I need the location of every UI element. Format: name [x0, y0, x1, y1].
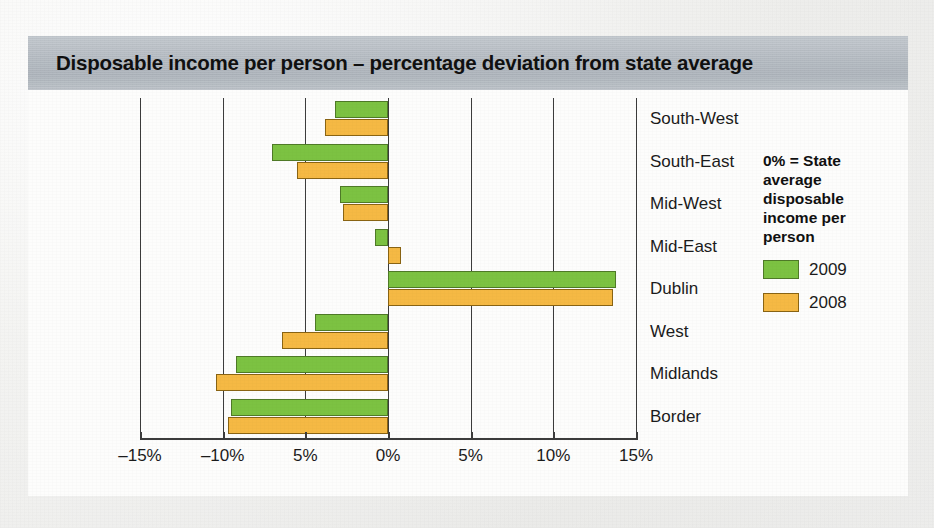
bar-2009-dublin: [388, 271, 616, 288]
bar-2009-mid-east: [375, 229, 388, 246]
page-title: Disposable income per person – percentag…: [56, 51, 753, 75]
x-axis-tick-label: –15%: [118, 446, 161, 466]
x-axis-tick-label: 15%: [619, 446, 653, 466]
bar-2008-mid-west: [343, 204, 388, 221]
category-label-south-west: South-West: [650, 109, 739, 129]
x-axis-tick: [636, 432, 638, 440]
bar-2009-midlands: [236, 356, 388, 373]
chart-plot-card: 0% = State average disposable income per…: [28, 90, 908, 496]
legend-item-2009[interactable]: 2009: [763, 260, 888, 280]
chart-title-band: Disposable income per person – percentag…: [28, 36, 908, 90]
chart-legend: 0% = State average disposable income per…: [763, 152, 888, 313]
chart-figure: Disposable income per person – percentag…: [28, 36, 908, 496]
legend-swatch-2008: [763, 293, 799, 312]
x-axis-tick-label: 10%: [536, 446, 570, 466]
gridline: [553, 98, 554, 438]
category-label-midlands: Midlands: [650, 364, 718, 384]
bar-2009-west: [315, 314, 388, 331]
bar-2008-mid-east: [388, 247, 401, 264]
category-label-west: West: [650, 322, 688, 342]
gridline: [388, 98, 389, 438]
plot-area: [140, 98, 636, 438]
legend-entries: 20092008: [763, 260, 888, 313]
bar-2008-dublin: [388, 289, 613, 306]
bar-2008-south-east: [297, 162, 388, 179]
bar-2009-border: [231, 399, 388, 416]
x-axis-tick-label: –10%: [201, 446, 244, 466]
legend-swatch-2009: [763, 260, 799, 279]
category-label-mid-east: Mid-East: [650, 237, 717, 257]
legend-label-2008: 2008: [809, 293, 847, 313]
x-axis-tick-label: 5%: [293, 446, 318, 466]
x-axis-tick: [553, 432, 555, 440]
x-axis-tick-label: 5%: [458, 446, 483, 466]
bar-2009-south-east: [272, 144, 388, 161]
legend-note: 0% = State average disposable income per…: [763, 152, 888, 247]
category-label-mid-west: Mid-West: [650, 194, 721, 214]
gridline: [636, 98, 637, 438]
scanned-page: Disposable income per person – percentag…: [0, 0, 934, 528]
bar-2008-midlands: [216, 374, 388, 391]
gridline: [471, 98, 472, 438]
bar-2008-west: [282, 332, 388, 349]
legend-label-2009: 2009: [809, 260, 847, 280]
gridline: [140, 98, 141, 438]
category-label-border: Border: [650, 407, 701, 427]
bar-2009-south-west: [335, 101, 388, 118]
bar-2009-mid-west: [340, 186, 388, 203]
bar-2008-south-west: [325, 119, 388, 136]
bar-2008-border: [228, 417, 388, 434]
category-label-dublin: Dublin: [650, 279, 698, 299]
x-axis-tick-label: 0%: [376, 446, 401, 466]
x-axis-tick: [471, 432, 473, 440]
x-axis-tick: [223, 432, 225, 440]
category-label-south-east: South-East: [650, 152, 734, 172]
legend-item-2008[interactable]: 2008: [763, 293, 888, 313]
x-axis-tick: [388, 432, 390, 440]
x-axis-tick: [305, 432, 307, 440]
x-axis-tick: [140, 432, 142, 440]
